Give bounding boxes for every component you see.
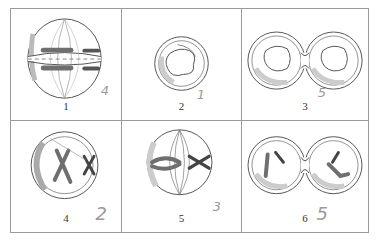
panel-5: 3 5 [122,121,242,232]
panel-label: 2 [122,100,241,112]
cell-division-grid: 4 1 1 2 5 3 [10,8,369,233]
panel-1: 4 1 [11,9,122,121]
panel-label: 3 [242,100,368,112]
panel-label: 6 [242,212,368,224]
panel-2: 1 2 [122,9,242,121]
panel-label: 5 [122,212,241,224]
panel-label: 1 [11,100,121,112]
panel-label: 4 [11,212,121,224]
panel-3: 5 3 [242,9,368,121]
panel-6: 5 6 [242,121,368,232]
handwritten-mark: 5 [318,85,326,100]
panel-4: 2 4 [11,121,122,232]
handwritten-mark: 4 [101,83,109,98]
